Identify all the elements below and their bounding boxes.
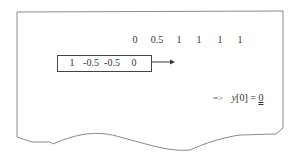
result-value: 0 <box>258 92 263 103</box>
signal-value: 1 <box>197 34 202 46</box>
signal-value: 1 <box>177 34 182 46</box>
signal-value: 1 <box>238 34 243 46</box>
signal-value: 0 <box>133 34 138 46</box>
torn-paper-frame <box>0 0 296 157</box>
result-equals: = <box>250 92 256 103</box>
implies-icon: => <box>213 93 223 103</box>
signal-value: 0.5 <box>151 34 164 46</box>
kernel-value: 1 <box>70 57 75 69</box>
kernel-value: -0.5 <box>83 57 99 69</box>
result-expression: => y[0] = 0 <box>213 92 263 104</box>
signal-value: 1 <box>218 34 223 46</box>
result-index: [0] <box>236 92 248 103</box>
kernel-value: -0.5 <box>104 57 120 69</box>
kernel-value: 0 <box>132 57 137 69</box>
